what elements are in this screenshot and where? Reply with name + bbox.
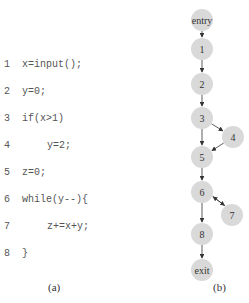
node-label: entry bbox=[192, 15, 213, 26]
node-label: 3 bbox=[200, 113, 205, 124]
node-7: 7 bbox=[221, 204, 243, 226]
caption-a: (a) bbox=[48, 281, 60, 293]
node-exit: exit bbox=[191, 259, 213, 281]
node-entry: entry bbox=[191, 9, 213, 31]
edge-3-4 bbox=[211, 124, 222, 131]
node-label: 4 bbox=[231, 132, 236, 143]
node-label: 1 bbox=[200, 44, 205, 55]
edge-4-5 bbox=[212, 143, 224, 151]
node-label: exit bbox=[195, 265, 210, 276]
node-6: 6 bbox=[191, 181, 213, 203]
node-label: 5 bbox=[200, 152, 205, 163]
node-3: 3 bbox=[191, 107, 213, 129]
node-2: 2 bbox=[191, 73, 213, 95]
edge-7-6 bbox=[213, 197, 225, 206]
node-label: 8 bbox=[200, 229, 205, 240]
caption-b: (b) bbox=[213, 281, 226, 293]
node-4: 4 bbox=[222, 126, 244, 148]
node-5: 5 bbox=[191, 146, 213, 168]
node-label: 7 bbox=[230, 210, 235, 221]
node-8: 8 bbox=[191, 223, 213, 245]
node-label: 6 bbox=[200, 187, 205, 198]
node-1: 1 bbox=[191, 38, 213, 60]
control-flow-graph: entry12345678exit bbox=[0, 0, 249, 303]
node-label: 2 bbox=[200, 79, 205, 90]
